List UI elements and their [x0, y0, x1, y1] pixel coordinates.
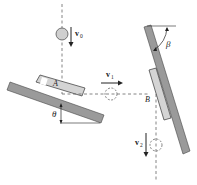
v2-arrowhead-icon	[144, 152, 149, 157]
point-a-label: A	[52, 79, 58, 88]
v1-subscript: 1	[111, 74, 114, 80]
diagram-canvas: v 0 A v 1 θ β B v 2	[0, 0, 197, 185]
v2-subscript: 2	[140, 142, 143, 148]
point-b-label: B	[145, 95, 150, 104]
v0-arrowhead-icon	[69, 42, 74, 47]
theta-label: θ	[52, 109, 57, 119]
v0-label: v	[75, 29, 79, 38]
theta-arrowhead-bottom-icon	[60, 120, 63, 124]
beta-label: β	[165, 39, 171, 49]
beta-arrowhead-top-icon	[165, 27, 169, 31]
v0-subscript: 0	[80, 33, 83, 39]
v2-label: v	[135, 138, 139, 147]
v1-arrowhead-icon	[118, 81, 123, 86]
ball-initial	[56, 28, 68, 40]
v1-label: v	[106, 70, 110, 79]
